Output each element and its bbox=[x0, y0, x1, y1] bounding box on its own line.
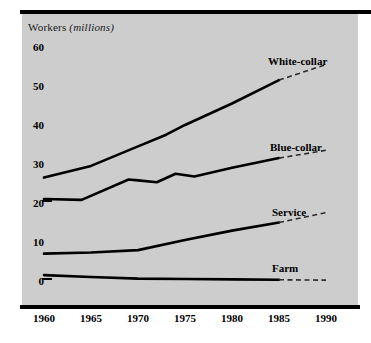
axis-tickmarks bbox=[42, 201, 52, 279]
line-farm-solid bbox=[44, 275, 279, 280]
series-service bbox=[44, 213, 326, 254]
chart-figure: Workers (millions) 60 50 40 30 20 10 0 1… bbox=[0, 0, 371, 343]
series-blue-collar bbox=[44, 150, 326, 200]
series-farm bbox=[44, 275, 326, 280]
line-white-collar-projection bbox=[279, 65, 326, 81]
line-service-solid bbox=[44, 222, 279, 253]
plot-lines bbox=[0, 0, 371, 343]
series-white-collar bbox=[44, 65, 326, 178]
line-blue-collar-solid bbox=[44, 158, 279, 200]
line-white-collar-solid bbox=[44, 80, 279, 178]
line-service-projection bbox=[279, 213, 326, 223]
line-blue-collar-projection bbox=[279, 150, 326, 158]
